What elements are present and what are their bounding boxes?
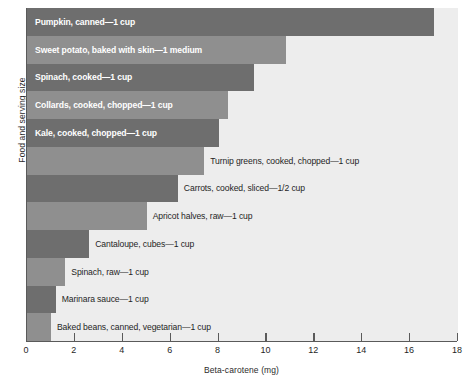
x-axis-title: Beta-carotene (mg) xyxy=(26,365,457,375)
bar-row: Marinara sauce—1 cup xyxy=(27,286,458,314)
bar-label: Marinara sauce—1 cup xyxy=(62,294,149,304)
bar-label: Spinach, raw—1 cup xyxy=(71,267,149,277)
x-axis-tick xyxy=(122,333,123,341)
x-axis-tick-label: 14 xyxy=(356,345,366,355)
beta-carotene-bar-chart: Food and serving size Pumpkin, canned—1 … xyxy=(0,0,466,384)
bar-label: Collards, cooked, chopped—1 cup xyxy=(35,100,173,110)
bar-row: Baked beans, canned, vegetarian—1 cup xyxy=(27,313,458,341)
x-axis-tick xyxy=(218,333,219,341)
bar-label: Apricot halves, raw—1 cup xyxy=(153,211,253,221)
bar xyxy=(27,230,89,258)
x-axis-line xyxy=(26,341,457,342)
x-axis-tick-label: 12 xyxy=(308,345,318,355)
x-axis-tick-label: 10 xyxy=(260,345,270,355)
x-axis-tick xyxy=(457,333,458,341)
bar-label: Pumpkin, canned—1 cup xyxy=(35,17,135,27)
bar-row: Spinach, raw—1 cup xyxy=(27,258,458,286)
bar-label: Spinach, cooked—1 cup xyxy=(35,72,132,82)
x-axis-tick-label: 4 xyxy=(119,345,124,355)
bar-row: Sweet potato, baked with skin—1 medium xyxy=(27,36,458,64)
bar-label: Cantaloupe, cubes—1 cup xyxy=(95,239,194,249)
bar-label: Sweet potato, baked with skin—1 medium xyxy=(35,45,202,55)
bar-label: Kale, cooked, chopped—1 cup xyxy=(35,128,157,138)
x-axis-tick xyxy=(265,333,266,341)
bar-label: Baked beans, canned, vegetarian—1 cup xyxy=(57,322,211,332)
x-axis-tick-label: 16 xyxy=(404,345,414,355)
bar xyxy=(27,313,51,341)
x-axis-tick-label: 2 xyxy=(71,345,76,355)
x-axis-tick xyxy=(26,333,27,341)
bar-row: Spinach, cooked—1 cup xyxy=(27,64,458,92)
x-axis-tick-label: 6 xyxy=(167,345,172,355)
x-axis-tick xyxy=(170,333,171,341)
bar xyxy=(27,258,65,286)
bar xyxy=(27,286,56,314)
bar-label: Carrots, cooked, sliced—1/2 cup xyxy=(184,183,305,193)
x-axis-tick xyxy=(409,333,410,341)
x-axis-tick-label: 8 xyxy=(215,345,220,355)
bar-label: Turnip greens, cooked, chopped—1 cup xyxy=(210,156,359,166)
x-axis-tick xyxy=(361,333,362,341)
bar xyxy=(27,147,204,175)
x-axis-tick-label: 18 xyxy=(452,345,462,355)
bar-row: Apricot halves, raw—1 cup xyxy=(27,202,458,230)
bar-row: Cantaloupe, cubes—1 cup xyxy=(27,230,458,258)
bar-row: Turnip greens, cooked, chopped—1 cup xyxy=(27,147,458,175)
x-axis-tick-label: 0 xyxy=(23,345,28,355)
x-axis-tick xyxy=(313,333,314,341)
bar-row: Pumpkin, canned—1 cup xyxy=(27,8,458,36)
plot-area: Pumpkin, canned—1 cupSweet potato, baked… xyxy=(26,8,458,341)
bar-row: Carrots, cooked, sliced—1/2 cup xyxy=(27,175,458,203)
bar xyxy=(27,175,178,203)
x-axis-tick xyxy=(74,333,75,341)
bar-row: Kale, cooked, chopped—1 cup xyxy=(27,119,458,147)
bar xyxy=(27,202,147,230)
bar-row: Collards, cooked, chopped—1 cup xyxy=(27,91,458,119)
